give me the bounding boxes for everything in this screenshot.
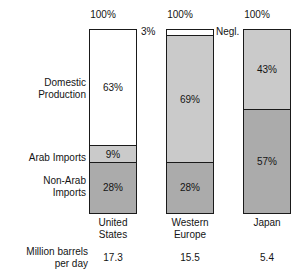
callout-japan-domestic: Negl. — [216, 26, 239, 37]
total-label-united-states: 100% — [73, 9, 133, 20]
axis-label-japan: Japan — [230, 217, 299, 229]
segment-value: 28% — [103, 182, 123, 193]
segment-value: 63% — [103, 82, 123, 93]
segment-western-europe-non-arab-imports: 28% — [167, 162, 213, 213]
bar-western-europe: 3% 69% 28% — [166, 29, 214, 214]
segment-united-states-domestic-production: 63% — [90, 30, 136, 145]
segment-value: 57% — [257, 156, 277, 167]
oil-supply-stacked-bar-chart: 100% 100% 100% 3% Negl. Domestic Product… — [0, 0, 299, 279]
footer-value-western-europe: 15.5 — [153, 252, 227, 263]
bar-united-states: 63% 9% 28% — [89, 29, 137, 214]
segment-japan-arab-imports: 43% — [244, 30, 290, 109]
footer-value-japan: 5.4 — [230, 252, 299, 263]
row-label-non-arab-imports: Non-Arab Imports — [0, 175, 86, 199]
total-label-japan: 100% — [227, 9, 287, 20]
axis-label-united-states: United States — [76, 217, 150, 241]
row-label-domestic-production: Domestic Production — [0, 77, 86, 101]
segment-value: 43% — [257, 64, 277, 75]
axis-label-western-europe: Western Europe — [153, 217, 227, 241]
segment-united-states-arab-imports: 9% — [90, 145, 136, 161]
segment-united-states-non-arab-imports: 28% — [90, 162, 136, 213]
segment-value: 28% — [180, 182, 200, 193]
footer-value-united-states: 17.3 — [76, 252, 150, 263]
segment-value: 69% — [180, 94, 200, 105]
callout-western-europe-domestic: 3% — [141, 26, 155, 37]
row-label-arab-imports: Arab Imports — [0, 152, 86, 164]
bar-japan: 43% 57% — [243, 29, 291, 214]
segment-value: 9% — [106, 149, 120, 160]
segment-western-europe-arab-imports: 69% — [167, 35, 213, 161]
segment-japan-non-arab-imports: 57% — [244, 109, 290, 213]
total-label-western-europe: 100% — [150, 9, 210, 20]
